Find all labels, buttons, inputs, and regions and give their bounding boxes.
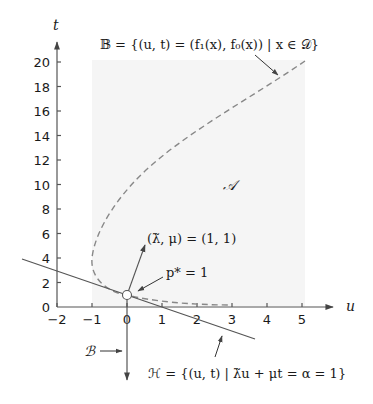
svg-text:4: 4 (263, 312, 271, 327)
svg-text:5: 5 (298, 312, 306, 327)
x-tick-labels: −2 −1 0 1 2 3 4 5 (47, 312, 306, 327)
svg-text:16: 16 (33, 104, 50, 119)
svg-text:0: 0 (42, 300, 50, 315)
svg-text:−1: −1 (82, 312, 101, 327)
svg-text:2: 2 (42, 276, 50, 291)
svg-text:20: 20 (33, 55, 50, 70)
svg-text:12: 12 (33, 153, 50, 168)
svg-text:6: 6 (42, 227, 50, 242)
normal-vector-label: (λ̃, μ) = (1, 1) (147, 231, 236, 246)
svg-text:14: 14 (33, 129, 50, 144)
hyperplane-label-arrow (215, 336, 222, 357)
u-axis-label: u (346, 298, 355, 314)
optimum-label: p* = 1 (166, 265, 208, 280)
curve-b-label: 𝔹 = {(u, t) = (f₁(x), f₀(x)) | x ∈ 𝒟} (100, 37, 319, 52)
optimum-point (123, 291, 132, 300)
svg-text:10: 10 (33, 178, 50, 193)
ray-b-label: ℬ (84, 343, 96, 359)
svg-text:−2: −2 (47, 312, 66, 327)
svg-text:3: 3 (228, 312, 236, 327)
t-axis-label: t (53, 17, 59, 33)
svg-text:1: 1 (158, 312, 166, 327)
svg-text:18: 18 (33, 80, 50, 95)
hyperplane-label: ℋ = {(u, t) | λ̃u + μt = α = 1} (148, 366, 346, 381)
svg-text:4: 4 (42, 251, 50, 266)
svg-text:8: 8 (42, 202, 50, 217)
convex-separation-diagram: −2 −1 0 1 2 3 4 5 0 2 4 6 8 10 12 14 16 … (0, 0, 373, 404)
y-tick-labels: 0 2 4 6 8 10 12 14 16 18 20 (33, 55, 50, 315)
